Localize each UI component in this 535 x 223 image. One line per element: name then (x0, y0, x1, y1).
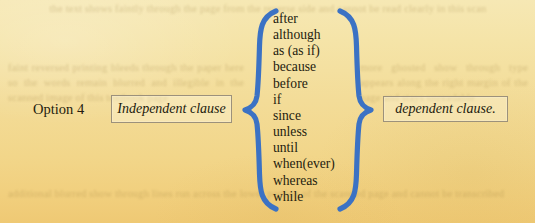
show-through-text-top: the text shows faintly through the page … (8, 1, 528, 45)
list-item: since (273, 108, 335, 124)
closing-brace-icon (329, 8, 375, 212)
dependent-clause-box: dependent clause. (383, 96, 508, 122)
list-item: until (273, 140, 335, 156)
option-label: Option 4 (33, 99, 103, 120)
dependent-clause-label: dependent clause. (395, 101, 495, 117)
list-item: because (273, 59, 335, 75)
list-item: after (273, 11, 335, 27)
subordinating-conjunction-list: after although as (as if) because before… (273, 11, 335, 205)
list-item: as (as if) (273, 43, 335, 59)
show-through-text-middle-right: more ghosted show through type appears a… (360, 60, 528, 210)
list-item: while (273, 189, 335, 205)
independent-clause-label: Independent clause (117, 101, 225, 117)
list-item: before (273, 76, 335, 92)
show-through-text-bottom: additional blurred show through lines ru… (8, 186, 528, 220)
list-item: whereas (273, 173, 335, 189)
textbook-page-figure: the text shows faintly through the page … (0, 0, 535, 223)
list-item: although (273, 27, 335, 43)
list-item: unless (273, 124, 335, 140)
list-item: if (273, 92, 335, 108)
show-through-text-middle-left: faint reversed printing bleeds through t… (8, 60, 244, 210)
list-item: when(ever) (273, 156, 335, 172)
independent-clause-box: Independent clause (111, 95, 232, 123)
